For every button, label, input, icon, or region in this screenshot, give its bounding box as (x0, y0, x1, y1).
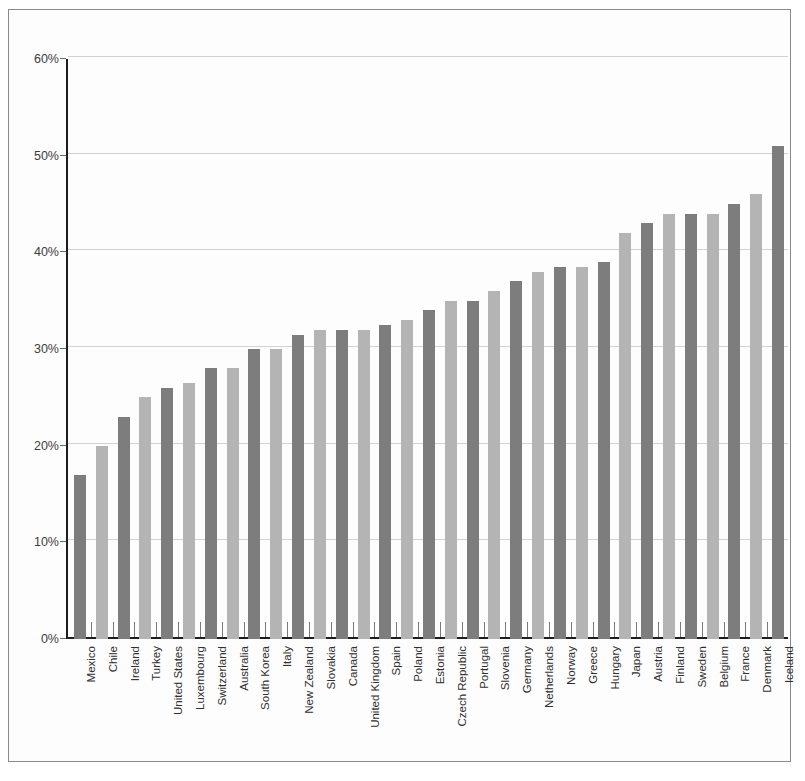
bar-slot[interactable] (445, 59, 457, 639)
bar-slot[interactable] (772, 59, 784, 639)
x-label-italy: Italy (281, 646, 293, 667)
bar[interactable] (467, 301, 479, 639)
bar-slot[interactable] (292, 59, 304, 639)
x-tick (113, 622, 114, 637)
x-tick (549, 622, 550, 637)
bar[interactable] (270, 349, 282, 639)
bar-slot[interactable] (248, 59, 260, 639)
bar-slot[interactable] (488, 59, 500, 639)
bar-slot[interactable] (467, 59, 479, 639)
bar[interactable] (314, 330, 326, 639)
x-label-greece: Greece (587, 646, 599, 684)
bar-slot[interactable] (96, 59, 108, 639)
x-tick (222, 622, 223, 637)
bar-slot[interactable] (641, 59, 653, 639)
bar-slot[interactable] (619, 59, 631, 639)
bar-slot[interactable] (728, 59, 740, 639)
bar[interactable] (423, 310, 435, 639)
bar-slot[interactable] (510, 59, 522, 639)
bar-series (68, 59, 788, 639)
bar[interactable] (532, 272, 544, 639)
bar[interactable] (510, 281, 522, 639)
x-label-mexico: Mexico (85, 646, 97, 682)
bar[interactable] (227, 368, 239, 639)
x-label-czech-republic: Czech Republic (456, 646, 468, 727)
bar[interactable] (728, 204, 740, 639)
bar-slot[interactable] (423, 59, 435, 639)
bar-slot[interactable] (139, 59, 151, 639)
bar[interactable] (663, 214, 675, 639)
bar[interactable] (772, 146, 784, 639)
x-label-germany: Germany (521, 646, 533, 693)
bar-slot[interactable] (270, 59, 282, 639)
x-tick (593, 622, 594, 637)
bar-slot[interactable] (750, 59, 762, 639)
bar-slot[interactable] (532, 59, 544, 639)
x-label-iceland: Iceland (783, 646, 795, 683)
bar[interactable] (183, 383, 195, 639)
bar[interactable] (445, 301, 457, 639)
bar[interactable] (292, 335, 304, 640)
x-label-chile: Chile (107, 646, 119, 672)
x-label-australia: Australia (238, 646, 250, 691)
x-label-united-kingdom: United Kingdom (369, 646, 381, 728)
bar-slot[interactable] (576, 59, 588, 639)
x-label-ireland: Ireland (129, 646, 141, 681)
x-label-portugal: Portugal (478, 646, 490, 689)
x-label-united-states: United States (172, 646, 184, 715)
bar-slot[interactable] (336, 59, 348, 639)
bar-slot[interactable] (379, 59, 391, 639)
x-tick (462, 622, 463, 637)
bar[interactable] (554, 267, 566, 639)
bar[interactable] (139, 397, 151, 639)
x-label-france: France (739, 646, 751, 682)
bar[interactable] (96, 446, 108, 639)
bar[interactable] (641, 223, 653, 639)
x-label-turkey: Turkey (150, 646, 162, 681)
x-label-finland: Finland (674, 646, 686, 684)
x-tick (505, 622, 506, 637)
bar-slot[interactable] (227, 59, 239, 639)
bar[interactable] (401, 320, 413, 639)
bar-slot[interactable] (74, 59, 86, 639)
x-tick (702, 622, 703, 637)
x-label-canada: Canada (347, 646, 359, 686)
bar[interactable] (118, 417, 130, 639)
figure-frame: 0%10%20%30%40%50%60% MexicoChileIrelandT… (8, 9, 791, 762)
bar-slot[interactable] (183, 59, 195, 639)
bar[interactable] (358, 330, 370, 639)
bar-slot[interactable] (663, 59, 675, 639)
x-tick (484, 622, 485, 637)
x-tick (636, 622, 637, 637)
bar[interactable] (488, 291, 500, 639)
bar-slot[interactable] (358, 59, 370, 639)
bar[interactable] (685, 214, 697, 639)
x-tick (440, 622, 441, 637)
bar-slot[interactable] (707, 59, 719, 639)
bar-slot[interactable] (161, 59, 173, 639)
x-label-slovakia: Slovakia (325, 646, 337, 689)
bar[interactable] (205, 368, 217, 639)
x-label-denmark: Denmark (761, 646, 773, 693)
bar[interactable] (619, 233, 631, 639)
bar[interactable] (336, 330, 348, 639)
bar-slot[interactable] (554, 59, 566, 639)
bar[interactable] (379, 325, 391, 639)
bar[interactable] (750, 194, 762, 639)
bar[interactable] (707, 214, 719, 639)
x-label-new-zealand: New Zealand (303, 646, 315, 714)
bar[interactable] (248, 349, 260, 639)
bar[interactable] (598, 262, 610, 639)
bar-slot[interactable] (314, 59, 326, 639)
bar-slot[interactable] (685, 59, 697, 639)
bar-slot[interactable] (598, 59, 610, 639)
x-tick (134, 622, 135, 637)
bar[interactable] (161, 388, 173, 639)
bar-slot[interactable] (205, 59, 217, 639)
bar-slot[interactable] (401, 59, 413, 639)
x-axis-tick-marks (68, 622, 788, 639)
bar[interactable] (576, 267, 588, 639)
bar-slot[interactable] (118, 59, 130, 639)
x-tick (244, 622, 245, 637)
bar[interactable] (74, 475, 86, 639)
